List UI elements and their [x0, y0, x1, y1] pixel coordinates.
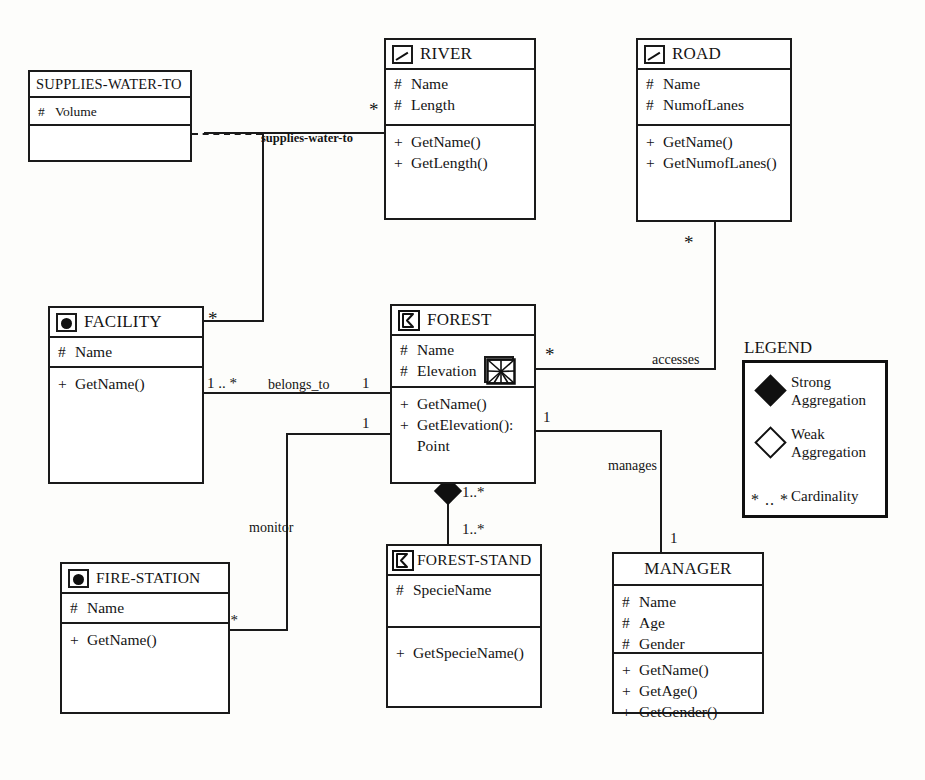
class-box-forest[interactable]: FOREST # Name # Elevation + GetN [390, 304, 536, 484]
class-header-facility: FACILITY [50, 308, 202, 338]
class-operations-river: + GetName() + GetLength() [386, 126, 534, 176]
assoc-label-accesses: accesses [652, 352, 699, 367]
class-box-road[interactable]: ROAD # Name # NumofLanes + GetName() + G… [636, 38, 792, 222]
attribute-name: Age [639, 612, 665, 633]
visibility-marker: # [400, 339, 417, 360]
attribute-row: # Name [638, 73, 790, 94]
point-icon [68, 569, 89, 588]
line-icon [644, 45, 665, 64]
cardinality-accesses-forest-star: * [545, 349, 555, 361]
class-box-manager[interactable]: MANAGER # Name # Age # Gender + GetName(… [612, 552, 764, 714]
attribute-row: # SpecieName [388, 579, 540, 600]
class-operations-facility: + GetName() [50, 368, 202, 397]
operation-row: + GetName() [62, 629, 228, 650]
class-attributes-river: # Name # Length [386, 70, 534, 126]
visibility-marker: # [38, 101, 55, 122]
attribute-row: # Name [386, 73, 534, 94]
class-header-fire-station: FIRE-STATION [62, 564, 228, 594]
visibility-marker: + [400, 414, 417, 435]
legend-label: Strong Aggregation [791, 373, 866, 409]
class-box-river[interactable]: RIVER # Name # Length + GetName() + GetL… [384, 38, 536, 220]
class-attributes-fire-station: # Name [62, 594, 228, 624]
visibility-marker: # [70, 597, 87, 618]
attribute-name: Length [411, 94, 455, 115]
visibility-marker: # [646, 73, 663, 94]
attribute-row: # Age [614, 612, 762, 633]
uml-class-diagram: * * supplies-water-to 1 .. * belongs_to … [0, 0, 925, 780]
filled-diamond-icon [749, 373, 791, 402]
operation-row: + GetElevation(): [392, 414, 534, 435]
tin-icon [484, 356, 514, 383]
visibility-marker: + [622, 680, 639, 701]
attribute-name: Name [417, 339, 454, 360]
class-name-forest: FOREST [427, 310, 492, 330]
legend-item-weak-aggregation: Weak Aggregation [749, 425, 887, 461]
operation-name: Point [417, 435, 450, 456]
operation-row-continuation: Point [392, 435, 534, 456]
class-box-fire-station[interactable]: FIRE-STATION # Name + GetName() [60, 562, 230, 714]
assoc-line-accesses-vertical [714, 222, 716, 370]
class-name-facility: FACILITY [84, 312, 162, 332]
assoc-line-belongs-to [204, 392, 390, 394]
class-attributes-forest-stand: # SpecieName [388, 576, 540, 628]
visibility-marker: # [394, 94, 411, 115]
class-operations-forest-stand: + GetSpecieName() [388, 628, 540, 666]
visibility-marker: + [58, 373, 75, 394]
attribute-row: # Name [614, 591, 762, 612]
attribute-name: Name [663, 73, 700, 94]
polygon-icon-svg [398, 310, 420, 331]
operation-row: + GetName() [614, 659, 762, 680]
class-box-forest-stand[interactable]: FOREST-STAND # SpecieName + GetSpecieNam… [386, 544, 542, 708]
attribute-name: Name [639, 591, 676, 612]
attribute-name: Name [75, 341, 112, 362]
operation-row: + GetName() [392, 393, 534, 414]
assoc-line-monitor-to-forest [286, 433, 392, 435]
class-box-facility[interactable]: FACILITY # Name + GetName() [48, 306, 204, 484]
cardinality-manages-manager: 1 [670, 531, 678, 546]
class-attributes-facility: # Name [50, 338, 202, 368]
class-name-forest-stand: FOREST-STAND [417, 551, 531, 569]
class-name-river: RIVER [420, 44, 472, 64]
cardinality-aggregation-forest: 1..* [462, 485, 485, 500]
class-attributes-road: # Name # NumofLanes [638, 70, 790, 126]
visibility-marker: + [396, 642, 413, 663]
open-diamond-icon [749, 425, 791, 454]
legend-label-line1: Strong [791, 373, 866, 391]
visibility-marker: # [58, 341, 75, 362]
class-header-manager: MANAGER [614, 554, 762, 586]
attribute-row: # Name [62, 597, 228, 618]
operation-row: + GetName() [638, 131, 790, 152]
class-name-fire-station: FIRE-STATION [96, 569, 201, 587]
filled-diamond-shape [754, 374, 787, 407]
visibility-marker: + [646, 152, 663, 173]
legend-label-line2: Aggregation [791, 391, 866, 409]
attribute-name: SpecieName [413, 579, 491, 600]
legend-label: Cardinality [791, 487, 859, 505]
visibility-marker: + [646, 131, 663, 152]
cardinality-symbol: * .. * [749, 487, 791, 509]
class-box-supplies-water-to[interactable]: SUPPLIES-WATER-TO # Volume [28, 70, 192, 162]
cardinality-belongs-to-facility: 1 .. * [207, 376, 237, 391]
class-attributes-manager: # Name # Age # Gender [614, 586, 762, 654]
visibility-marker: # [396, 579, 413, 600]
class-header-river: RIVER [386, 40, 534, 70]
class-operations-manager: + GetName() + GetAge() + GetGender() [614, 654, 762, 725]
visibility-marker [400, 435, 417, 456]
tin-icon-svg [486, 358, 516, 385]
class-attributes-supplies-water-to: # Volume [30, 98, 190, 126]
attribute-row: # Length [386, 94, 534, 115]
operation-name: GetName() [87, 629, 157, 650]
attribute-row: # NumofLanes [638, 94, 790, 115]
open-diamond-shape [754, 426, 787, 459]
visibility-marker: + [70, 629, 87, 650]
cardinality-manages-forest: 1 [543, 410, 551, 425]
assoc-label-monitor: monitor [249, 520, 293, 535]
operation-name: GetName() [639, 659, 709, 680]
visibility-marker: + [394, 131, 411, 152]
cardinality-river-star: * [369, 104, 379, 116]
operation-name: GetGender() [639, 701, 717, 722]
visibility-marker: # [394, 73, 411, 94]
attribute-row: # Volume [30, 101, 190, 122]
class-name-supplies-water-to: SUPPLIES-WATER-TO [36, 76, 182, 93]
assoc-line-manages-horizontal [536, 430, 662, 432]
